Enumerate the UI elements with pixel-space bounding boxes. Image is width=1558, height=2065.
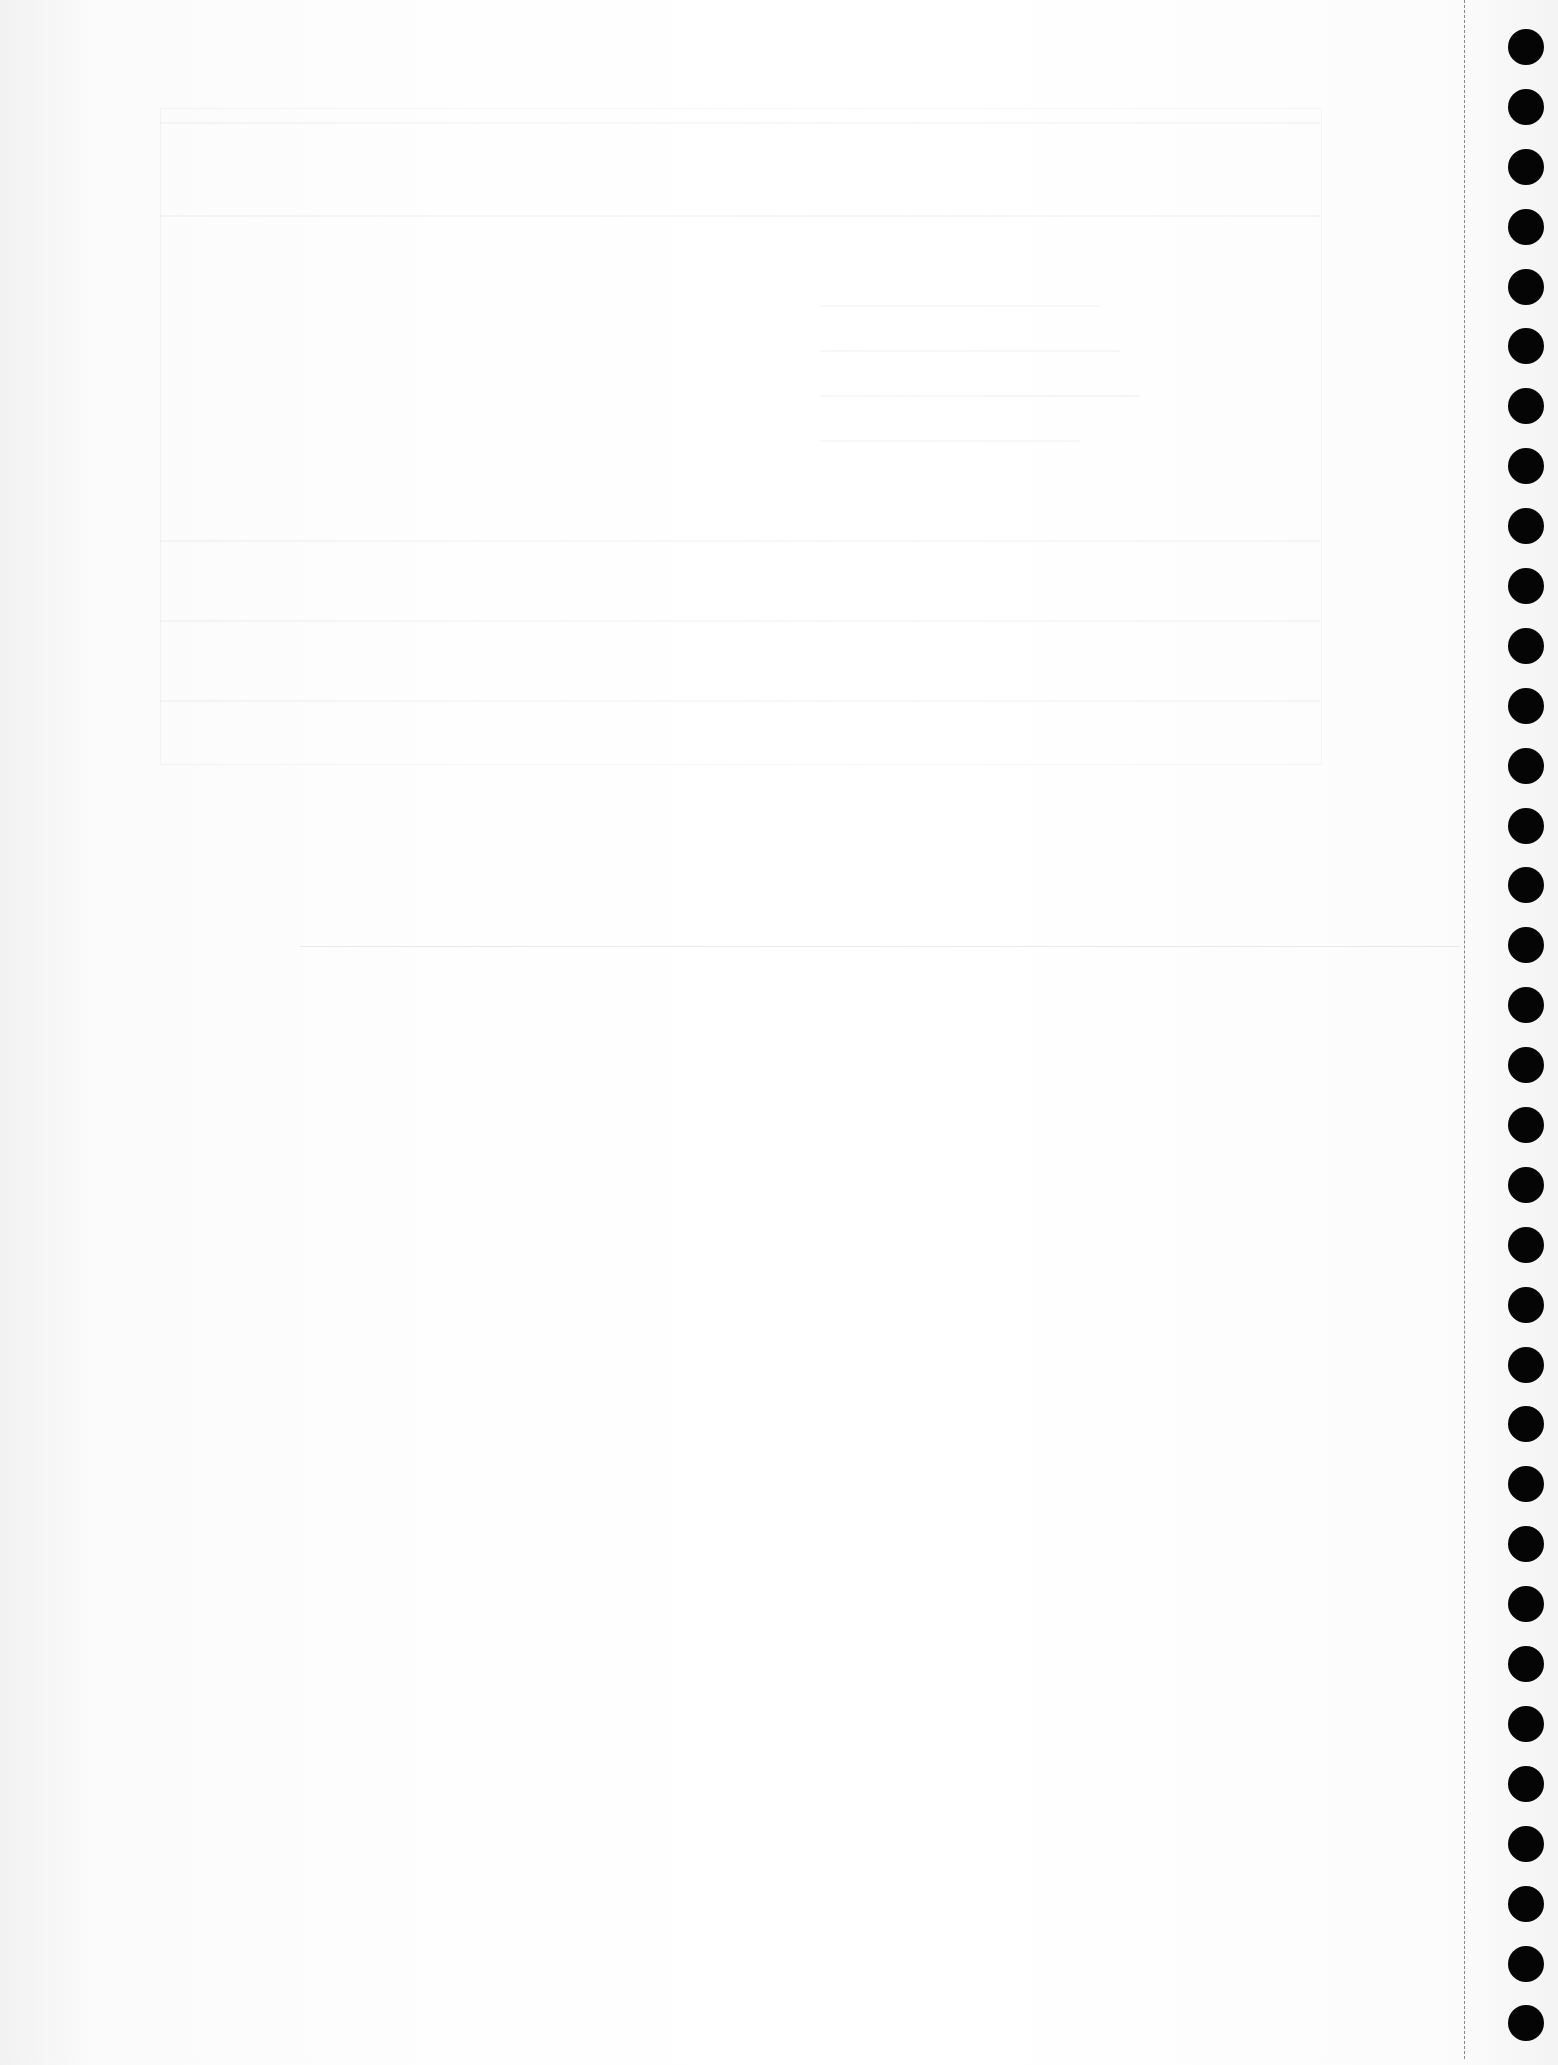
bleed-through-line <box>160 620 1320 622</box>
binding-hole-icon <box>1508 688 1544 724</box>
binding-hole-icon <box>1508 29 1544 65</box>
binding-hole-icon <box>1508 748 1544 784</box>
bleed-through-line <box>160 122 1320 124</box>
binding-holes <box>1508 29 1546 2065</box>
bleed-through-line <box>160 215 1320 217</box>
bleed-through-line <box>820 350 1120 352</box>
binding-hole-icon <box>1508 628 1544 664</box>
binding-hole-icon <box>1508 1287 1544 1323</box>
binding-hole-icon <box>1508 269 1544 305</box>
binding-hole-icon <box>1508 1826 1544 1862</box>
perforation-line <box>1464 0 1465 2059</box>
binding-hole-icon <box>1508 808 1544 844</box>
binding-hole-icon <box>1508 448 1544 484</box>
binding-hole-icon <box>1508 328 1544 364</box>
fold-line <box>300 946 1460 947</box>
binding-hole-icon <box>1508 927 1544 963</box>
binding-hole-icon <box>1508 508 1544 544</box>
binding-hole-icon <box>1508 1466 1544 1502</box>
binding-hole-icon <box>1508 987 1544 1023</box>
bleed-through-line <box>160 700 1320 702</box>
bleed-through-line <box>820 395 1140 397</box>
binding-hole-icon <box>1508 568 1544 604</box>
binding-hole-icon <box>1508 1706 1544 1742</box>
binding-hole-icon <box>1508 209 1544 245</box>
binding-hole-icon <box>1508 1347 1544 1383</box>
binding-hole-icon <box>1508 2005 1544 2041</box>
binding-hole-icon <box>1508 1227 1544 1263</box>
binding-hole-icon <box>1508 1946 1544 1982</box>
bleed-through-region <box>160 108 1322 765</box>
binding-hole-icon <box>1508 867 1544 903</box>
binding-hole-icon <box>1508 1526 1544 1562</box>
binding-hole-icon <box>1508 1766 1544 1802</box>
binding-hole-icon <box>1508 1646 1544 1682</box>
bleed-through-line <box>820 305 1100 307</box>
binding-hole-icon <box>1508 89 1544 125</box>
binding-hole-icon <box>1508 1886 1544 1922</box>
binding-hole-icon <box>1508 1406 1544 1442</box>
bleed-through-line <box>820 440 1080 442</box>
binding-hole-icon <box>1508 1107 1544 1143</box>
binding-hole-icon <box>1508 1047 1544 1083</box>
binding-hole-icon <box>1508 388 1544 424</box>
binding-hole-icon <box>1508 149 1544 185</box>
bleed-through-line <box>160 540 1320 542</box>
binding-hole-icon <box>1508 1167 1544 1203</box>
binding-hole-icon <box>1508 1586 1544 1622</box>
